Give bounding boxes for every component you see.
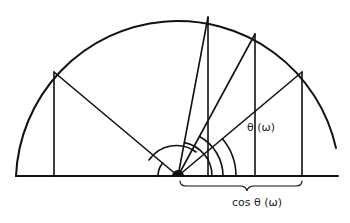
ray-4	[178, 72, 302, 176]
center-point	[172, 170, 184, 176]
ray-3	[178, 34, 255, 176]
semicircle-diagram: θ (ω) cos θ (ω)	[0, 0, 350, 223]
ray-1	[54, 72, 178, 176]
diagram-graphic	[0, 0, 350, 223]
theta-label: θ (ω)	[247, 121, 275, 134]
cos-theta-label: cos θ (ω)	[232, 196, 282, 209]
angle-arc-1	[158, 163, 163, 176]
angle-arc-4	[222, 139, 236, 176]
cos-brace	[180, 181, 302, 191]
semicircle-arc	[16, 21, 336, 176]
ray-2	[178, 17, 208, 176]
